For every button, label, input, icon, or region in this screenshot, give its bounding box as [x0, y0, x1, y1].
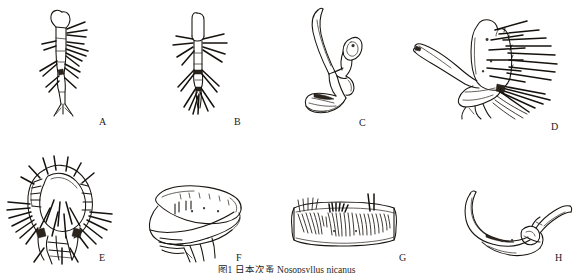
panel-label-f: F: [236, 253, 242, 263]
panel-label-a: A: [99, 117, 106, 127]
panel-e-head-capsule: [4, 152, 118, 266]
panel-a-maxillary-palp: [32, 4, 112, 116]
panel-label-d: D: [551, 122, 558, 132]
panel-c-artwork: [305, 8, 362, 112]
panel-d-clasper: [405, 8, 573, 120]
panel-label-g: G: [399, 253, 406, 263]
panel-b-artwork: [173, 13, 227, 114]
panel-g-spermatheca-plate: [286, 186, 410, 260]
panel-label-h: H: [555, 253, 562, 263]
panel-c-aedeagus: [296, 6, 382, 116]
panel-f-sternite: [142, 182, 254, 262]
panel-e-artwork: [7, 156, 112, 264]
figure-caption: 图1 日本次蚤 Nosopsyllus nicanus: [0, 265, 573, 273]
panel-label-c: C: [359, 118, 366, 128]
panel-label-b: B: [234, 117, 241, 127]
figure-plate: A: [0, 0, 573, 273]
panel-d-artwork: [414, 20, 558, 119]
panel-f-artwork: [149, 186, 241, 262]
panel-b-labial-palp: [170, 10, 248, 114]
panel-g-artwork: [292, 194, 397, 246]
panel-label-e: E: [99, 253, 105, 263]
panel-a-artwork: [40, 10, 88, 116]
panel-h-manubrium: [452, 186, 572, 262]
panel-h-artwork: [465, 191, 571, 256]
